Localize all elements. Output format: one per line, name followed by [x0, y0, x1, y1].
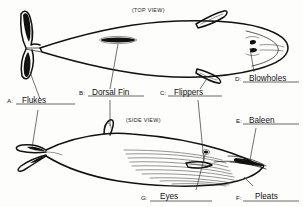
- top-view-dorsal-fin: [100, 36, 137, 43]
- label-letter-d: D:: [235, 75, 241, 82]
- leader-line-c-side: [198, 100, 204, 162]
- side-view-baleen: [228, 156, 266, 169]
- leader-line-b-top: [110, 44, 118, 89]
- answer-rules: [16, 82, 299, 201]
- label-letter-b: B:: [79, 89, 85, 96]
- side-view-eye: [203, 149, 210, 154]
- side-view-pleats: [124, 150, 234, 186]
- whale-diagram-canvas: (TOP VIEW) (SIDE VIEW) A: Flukes B: Dors…: [0, 0, 303, 207]
- top-view-fluke-shading-lower: [24, 52, 31, 77]
- view-caption-top: (TOP VIEW): [132, 7, 165, 13]
- label-letter-a: A:: [7, 97, 13, 104]
- leader-line-a-side: [32, 110, 38, 148]
- label-letter-g: G:: [141, 194, 148, 201]
- label-letter-c: C:: [160, 89, 166, 96]
- side-view-whale: [16, 120, 266, 186]
- label-term-g[interactable]: Eyes: [160, 192, 178, 201]
- leader-line-e: [250, 128, 256, 160]
- top-view-blowholes: [246, 37, 284, 56]
- side-view-back-outline: [46, 133, 256, 164]
- leader-line-a-top: [30, 72, 40, 99]
- worksheet-page: (TOP VIEW) (SIDE VIEW) A: Flukes B: Dors…: [0, 0, 303, 207]
- top-view-whale: [21, 11, 288, 83]
- label-letter-e: E:: [236, 117, 242, 124]
- view-caption-side: (SIDE VIEW): [126, 117, 161, 123]
- label-term-f[interactable]: Pleats: [255, 192, 278, 201]
- top-view-tail-stock-lower: [26, 49, 42, 52]
- label-term-d[interactable]: Blowholes: [249, 74, 286, 83]
- label-term-e[interactable]: Baleen: [249, 116, 275, 125]
- label-term-c[interactable]: Flippers: [174, 88, 203, 97]
- label-term-b[interactable]: Dorsal Fin: [92, 88, 130, 97]
- side-view-flukes: [16, 145, 62, 171]
- label-letter-f: F:: [236, 194, 242, 201]
- leader-line-f: [244, 177, 253, 186]
- label-term-a[interactable]: Flukes: [22, 96, 46, 105]
- top-view-fluke-shading-upper: [23, 13, 31, 42]
- top-view-flukes: [21, 11, 40, 79]
